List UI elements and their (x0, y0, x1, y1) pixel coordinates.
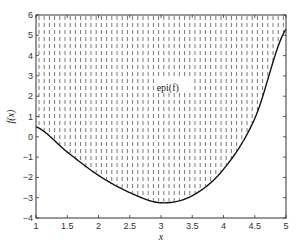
x-tick-label: 4 (221, 221, 226, 231)
function-curve (36, 29, 286, 203)
axes-box (36, 15, 286, 218)
annotation-label: epi(f) (157, 82, 179, 94)
x-tick-label: 5 (283, 221, 288, 231)
y-tick-label: −4 (23, 213, 33, 223)
x-tick-label: 4.5 (248, 221, 261, 231)
x-tick-label: 1.5 (61, 221, 74, 231)
x-tick-label: 2 (96, 221, 101, 231)
y-tick-label: −2 (23, 172, 33, 182)
y-tick-label: 0 (28, 132, 33, 142)
y-tick-label: 3 (28, 71, 33, 81)
epigraph-chart: epi(f)11.522.533.544.55−4−3−2−10123456xf… (0, 0, 304, 248)
y-axis-label: f(x) (5, 109, 17, 124)
y-tick-label: −1 (23, 152, 33, 162)
y-tick-label: −3 (23, 193, 33, 203)
y-tick-label: 2 (28, 91, 33, 101)
x-tick-label: 1 (33, 221, 38, 231)
y-tick-label: 5 (28, 30, 33, 40)
x-tick-label: 3.5 (186, 221, 199, 231)
x-tick-label: 2.5 (123, 221, 136, 231)
x-tick-label: 3 (158, 221, 163, 231)
y-tick-label: 4 (28, 51, 33, 61)
x-axis-label: x (158, 231, 164, 242)
y-tick-label: 1 (28, 112, 33, 122)
y-tick-label: 6 (28, 10, 33, 20)
